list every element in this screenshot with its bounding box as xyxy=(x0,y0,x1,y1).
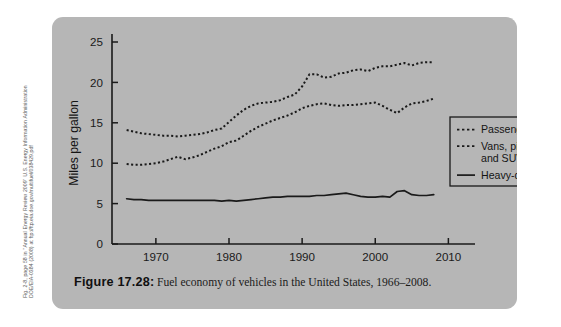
figure-caption-text: Fuel economy of vehicles in the United S… xyxy=(157,276,431,289)
x-tick-label: 2010 xyxy=(435,250,461,263)
chart-series xyxy=(127,62,434,201)
series-line-2 xyxy=(127,99,434,165)
series-line-1 xyxy=(127,62,434,136)
legend-label-3: Heavy-duty trucks xyxy=(481,169,517,181)
figure-caption: Figure 17.28: Fuel economy of vehicles i… xyxy=(74,275,504,289)
source-credit: Fig. 2-8, page 58 in "Annual Energy Revi… xyxy=(22,18,48,298)
y-tick-label: 20 xyxy=(90,76,103,89)
legend-label-2: Vans, pickup trucks, xyxy=(481,140,517,152)
x-tick-label: 1990 xyxy=(289,250,315,263)
y-tick-label: 0 xyxy=(97,237,103,250)
chart-labels: 051015202519701980199020002010Miles per … xyxy=(67,35,461,263)
fuel-economy-line-chart: 051015202519701980199020002010Miles per … xyxy=(52,17,517,272)
y-tick-label: 10 xyxy=(90,156,103,169)
legend-label-1: Passenger cars xyxy=(481,123,517,135)
y-tick-label: 15 xyxy=(90,116,103,129)
chart-legend: Passenger carsVans, pickup trucks,and SU… xyxy=(450,117,517,186)
x-tick-label: 2000 xyxy=(362,250,388,263)
figure-number: Figure 17.28 xyxy=(74,275,150,289)
figure-panel: 051015202519701980199020002010Miles per … xyxy=(52,17,517,309)
x-tick-label: 1970 xyxy=(143,250,169,263)
x-tick-label: 1980 xyxy=(216,250,242,263)
source-credit-line-2: DOE/EIA-0384 (2008) at ftp://ftp.eia.doe… xyxy=(28,18,34,298)
legend-label-2b: and SUVs xyxy=(481,152,517,164)
y-axis-title: Miles per gallon xyxy=(67,100,81,185)
y-tick-label: 5 xyxy=(97,197,103,210)
y-tick-label: 25 xyxy=(90,35,103,48)
series-line-3 xyxy=(127,191,434,202)
chart-axes xyxy=(112,34,475,244)
figure-colon: : xyxy=(150,275,154,289)
chart-plot-area: 051015202519701980199020002010Miles per … xyxy=(52,17,517,272)
